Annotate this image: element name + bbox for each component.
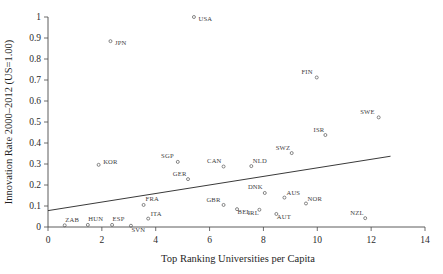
- data-point: NLD: [250, 157, 267, 168]
- x-tick-label: 6: [207, 235, 212, 245]
- data-point: ITA: [147, 210, 162, 220]
- data-point: USA: [192, 15, 212, 22]
- point-label: ZAB: [65, 216, 79, 223]
- data-point: SWZ: [276, 144, 294, 155]
- point-label: IRL: [248, 209, 259, 216]
- point-label: SWZ: [276, 144, 291, 151]
- data-point: DNK: [248, 183, 266, 194]
- point-marker: [315, 76, 318, 79]
- y-tick-label: 0.3: [29, 159, 41, 169]
- point-marker: [176, 160, 179, 163]
- point-label: HUN: [88, 215, 103, 222]
- y-tick-label: 0.6: [29, 96, 41, 106]
- point-marker: [304, 202, 307, 205]
- point-marker: [377, 116, 380, 119]
- point-label: FRA: [146, 195, 159, 202]
- axis-ticks: [44, 17, 425, 231]
- x-tick-label: 14: [420, 235, 430, 245]
- point-label: SVN: [131, 226, 145, 233]
- y-tick-label: 0.8: [29, 54, 41, 64]
- point-label: JPN: [115, 39, 127, 46]
- data-point: ISR: [313, 126, 326, 137]
- data-point: FIN: [302, 68, 319, 79]
- y-tick-label: 0.4: [29, 138, 41, 148]
- point-marker: [111, 223, 114, 226]
- x-tick-label: 4: [153, 235, 158, 245]
- point-label: ITA: [151, 210, 162, 217]
- data-point: ZAB: [63, 216, 79, 227]
- point-label: DNK: [248, 183, 263, 190]
- y-tick-label: 0.9: [29, 33, 41, 43]
- point-marker: [187, 178, 190, 181]
- data-point: KOR: [97, 158, 118, 167]
- data-point: JPN: [109, 39, 127, 46]
- point-marker: [109, 40, 112, 43]
- y-tick-label: 0.7: [29, 75, 41, 85]
- point-label: AUS: [286, 189, 300, 196]
- data-point: NZL: [350, 209, 366, 220]
- data-point: AUS: [283, 189, 300, 200]
- data-point: SGP: [161, 152, 179, 163]
- data-point: IRL: [248, 208, 261, 216]
- data-point: ESP: [111, 215, 125, 226]
- point-marker: [86, 223, 89, 226]
- point-label: ISR: [313, 126, 324, 133]
- y-tick-label: 0: [36, 222, 41, 232]
- point-marker: [364, 217, 367, 220]
- y-tick-label: 0.1: [29, 201, 41, 211]
- point-marker: [222, 165, 225, 168]
- point-label: GBR: [206, 196, 221, 203]
- point-label: CAN: [207, 157, 222, 164]
- point-marker: [147, 217, 150, 220]
- point-marker: [250, 165, 253, 168]
- point-marker: [324, 134, 327, 137]
- point-label: GER: [173, 170, 187, 177]
- point-label: NLD: [253, 157, 267, 164]
- point-marker: [283, 196, 286, 199]
- point-marker: [63, 224, 66, 227]
- point-label: USA: [198, 15, 212, 22]
- chart-figure: 0246810121400.10.20.30.40.50.60.70.80.91…: [0, 0, 443, 274]
- point-marker: [290, 152, 293, 155]
- point-marker: [142, 203, 145, 206]
- axes: [48, 17, 425, 227]
- data-point: FRA: [142, 195, 159, 206]
- point-label: KOR: [103, 158, 118, 165]
- point-marker: [192, 16, 195, 19]
- x-axis-title: Top Ranking Universities per Capita: [161, 253, 315, 264]
- point-label: NZL: [350, 209, 363, 216]
- x-tick-label: 10: [313, 235, 323, 245]
- x-tick-label: 0: [46, 235, 51, 245]
- data-point: GBR: [206, 196, 225, 207]
- data-point: AUT: [275, 212, 291, 220]
- data-point: SVN: [129, 224, 145, 233]
- point-marker: [263, 191, 266, 194]
- x-tick-label: 12: [366, 235, 376, 245]
- data-point: CAN: [207, 157, 225, 168]
- y-axis-title: Innovation Rate 2000–2012 (US=1.00): [3, 39, 15, 204]
- point-label: SGP: [161, 152, 174, 159]
- y-tick-label: 1: [36, 12, 41, 22]
- y-tick-label: 0.2: [29, 180, 41, 190]
- point-label: AUT: [277, 213, 291, 220]
- point-label: ESP: [113, 215, 125, 222]
- point-marker: [97, 163, 100, 166]
- data-point: HUN: [86, 215, 103, 226]
- y-tick-label: 0.5: [29, 117, 41, 127]
- data-point: GER: [173, 170, 190, 181]
- scatter-plot: 0246810121400.10.20.30.40.50.60.70.80.91…: [0, 0, 443, 274]
- point-label: NOR: [307, 195, 322, 202]
- point-label: SWE: [360, 108, 375, 115]
- axis-tick-labels: 0246810121400.10.20.30.40.50.60.70.80.91: [29, 12, 430, 245]
- data-point: SWE: [360, 108, 380, 119]
- point-marker: [222, 203, 225, 206]
- point-label: FIN: [302, 68, 313, 75]
- x-tick-label: 8: [261, 235, 266, 245]
- x-tick-label: 2: [99, 235, 104, 245]
- data-point: NOR: [304, 195, 322, 205]
